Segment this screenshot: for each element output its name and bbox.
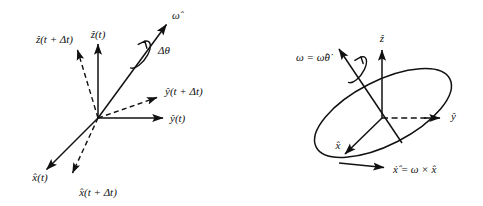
x-hat-t-plus-dt-arrow — [73, 118, 99, 173]
omega-hat-axis-arrow — [98, 25, 167, 119]
x-hat-dot-arrow — [339, 163, 384, 168]
rotation-diagram-svg: ω̂ Δθ ẑ(t) ẑ(t + Δt) ŷ(t) ŷ(t + Δt) … — [0, 0, 483, 206]
label-z-hat-t: ẑ(t) — [90, 28, 106, 41]
label-y-hat: ŷ — [450, 110, 456, 122]
label-z-hat: ẑ — [379, 32, 385, 44]
label-omega-hat: ω̂ — [172, 9, 185, 21]
label-y-hat-t-plus-dt: ŷ(t + Δt) — [164, 85, 203, 98]
x-hat-t-arrow — [47, 118, 99, 170]
rotation-circle — [302, 50, 465, 175]
x-hat-arrow — [345, 118, 382, 154]
label-x-hat-t: x̂(t) — [31, 171, 48, 184]
label-omega-vector: ω = ω̂θ̇ — [296, 51, 334, 63]
label-z-hat-t-plus-dt: ẑ(t + Δt) — [35, 33, 73, 46]
label-x-dot-equation: ẋ̂ = ω × x̂ — [392, 163, 437, 175]
y-hat-t-plus-dt-arrow — [98, 98, 157, 119]
omega-curl-icon — [343, 54, 371, 86]
delta-theta-curl-icon — [124, 38, 154, 72]
label-y-hat-t: ŷ(t) — [169, 112, 186, 125]
label-x-hat-t-plus-dt: x̂(t + Δt) — [78, 186, 117, 199]
z-hat-t-plus-dt-arrow — [78, 50, 99, 118]
label-delta-theta: Δθ — [157, 44, 170, 56]
label-x-hat: x̂ — [335, 139, 341, 151]
left-panel-group: ω̂ Δθ ẑ(t) ẑ(t + Δt) ŷ(t) ŷ(t + Δt) … — [31, 9, 203, 199]
right-panel-group: ω = ω̂θ̇ ẑ ŷ x̂ ẋ̂ = ω × x̂ — [296, 32, 464, 176]
rotation-figure: ω̂ Δθ ẑ(t) ẑ(t + Δt) ŷ(t) ŷ(t + Δt) … — [0, 0, 483, 206]
